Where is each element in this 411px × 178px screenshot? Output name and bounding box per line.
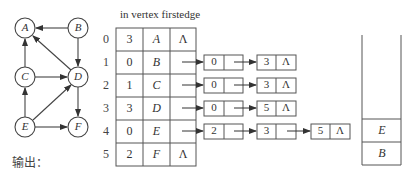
vertex-table-grid <box>116 28 196 166</box>
row-index: 0 <box>100 32 112 47</box>
cell-in: 1 <box>116 78 143 93</box>
cell-in: 3 <box>116 32 143 47</box>
cell-firstedge-null: Λ <box>170 32 196 47</box>
list3-node2-next: Λ <box>276 101 296 113</box>
node-f-label: F <box>68 120 88 132</box>
cell-vertex: D <box>143 101 170 116</box>
node-d-label: D <box>68 70 88 82</box>
row-index: 5 <box>100 147 112 162</box>
cell-in: 3 <box>116 101 143 116</box>
list1-node2-next: Λ <box>276 55 296 67</box>
cell-vertex: F <box>143 147 170 162</box>
cell-vertex: A <box>143 32 170 47</box>
node-c-label: C <box>15 70 35 82</box>
row-index: 1 <box>100 55 112 70</box>
list2-node2-adjvex: 3 <box>257 78 276 90</box>
edge-e-d <box>33 85 71 120</box>
node-a-label: A <box>15 21 35 33</box>
list4-node1-adjvex: 2 <box>204 124 224 136</box>
stack-item-bottom: B <box>362 146 402 161</box>
edge-d-a <box>33 36 71 70</box>
list4-node2-adjvex: 3 <box>257 124 276 136</box>
list3-node2-adjvex: 5 <box>257 101 276 113</box>
cell-vertex: B <box>143 55 170 70</box>
row-index: 4 <box>100 124 112 139</box>
list3-node1-adjvex: 0 <box>204 101 224 113</box>
list1-node2-adjvex: 3 <box>257 55 276 67</box>
cell-vertex: C <box>143 78 170 93</box>
cell-in: 0 <box>116 124 143 139</box>
output-label: 输出： <box>12 153 48 170</box>
stack-item-top: E <box>362 123 402 138</box>
list1-node1-adjvex: 0 <box>204 55 224 67</box>
list2-node1-adjvex: 0 <box>204 78 224 90</box>
cell-firstedge-null: Λ <box>170 147 196 162</box>
list4-node3-next: Λ <box>330 124 350 136</box>
table-header: in vertex firstedge <box>120 8 200 20</box>
cell-vertex: E <box>143 124 170 139</box>
cell-in: 0 <box>116 55 143 70</box>
list2-node2-next: Λ <box>276 78 296 90</box>
node-b-label: B <box>68 21 88 33</box>
row-index: 3 <box>100 101 112 116</box>
row-index: 2 <box>100 78 112 93</box>
list4-node3-adjvex: 5 <box>311 124 330 136</box>
cell-in: 2 <box>116 147 143 162</box>
node-e-label: E <box>15 120 35 132</box>
